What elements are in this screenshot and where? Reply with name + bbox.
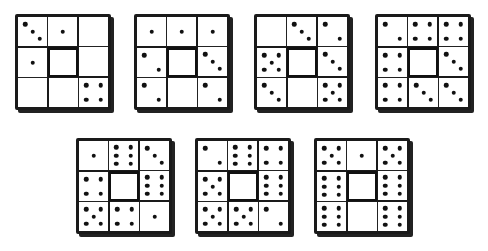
pip-icon	[383, 191, 388, 196]
domino-half	[377, 202, 407, 231]
pip-icon	[142, 53, 147, 58]
domino-half	[288, 78, 317, 107]
pip-icon	[383, 175, 388, 180]
domino-half	[198, 141, 227, 170]
pip-icon	[323, 83, 328, 88]
center-hole	[287, 47, 317, 77]
center-hole	[109, 171, 139, 201]
domino-puzzle-7	[314, 138, 410, 234]
pip-icon	[279, 191, 284, 196]
pip-icon	[203, 146, 208, 151]
pip-icon	[233, 145, 238, 150]
domino-half	[137, 48, 166, 77]
domino-puzzle-2	[134, 14, 230, 110]
pip-icon	[203, 83, 208, 88]
pip-icon	[414, 83, 419, 88]
pip-icon	[337, 176, 342, 181]
pip-icon	[145, 191, 150, 196]
domino-half	[198, 201, 227, 231]
pip-icon	[160, 161, 165, 166]
pip-icon	[451, 59, 456, 64]
domino-half	[378, 141, 407, 170]
pip-icon	[160, 191, 165, 196]
pip-icon	[210, 214, 215, 219]
pip-icon	[398, 83, 403, 88]
pip-icon	[307, 37, 312, 42]
pip-icon	[99, 83, 104, 88]
domino-half	[166, 17, 196, 46]
domino-left	[197, 171, 228, 232]
pip-icon	[277, 53, 282, 58]
center-hole	[228, 171, 258, 201]
pip-icon	[383, 206, 388, 211]
pip-icon	[383, 98, 388, 103]
pip-icon	[203, 222, 208, 227]
domino-puzzle-4	[375, 14, 471, 110]
pip-icon	[383, 161, 388, 166]
center-hole	[408, 47, 438, 77]
domino-half	[258, 202, 288, 231]
pip-icon	[398, 206, 403, 211]
pip-icon	[398, 183, 403, 188]
pip-icon	[160, 183, 165, 188]
center-hole	[347, 171, 377, 201]
pip-icon	[329, 153, 334, 158]
pip-icon	[84, 98, 89, 103]
domino-half	[378, 170, 407, 200]
domino-half	[346, 141, 376, 170]
pip-icon	[337, 206, 342, 211]
pip-icon	[451, 90, 456, 95]
pip-icon	[262, 53, 267, 58]
pip-icon	[218, 177, 223, 182]
domino-half	[49, 78, 78, 107]
pip-icon	[279, 146, 284, 151]
pip-icon	[459, 37, 464, 42]
domino-half	[378, 48, 407, 77]
pip-icon	[210, 184, 215, 189]
domino-bottom	[347, 201, 408, 232]
domino-bottom	[48, 77, 109, 108]
pip-icon	[337, 146, 342, 151]
domino-left	[316, 171, 347, 232]
pip-icon	[277, 68, 282, 73]
pip-icon	[218, 161, 223, 166]
pip-icon	[338, 37, 343, 42]
domino-half	[79, 172, 108, 201]
pip-icon	[91, 214, 96, 219]
pip-icon	[444, 83, 449, 88]
pip-icon	[279, 161, 284, 166]
pip-icon	[142, 83, 147, 88]
pip-icon	[30, 29, 35, 34]
domino-half	[407, 17, 437, 46]
pip-icon	[359, 153, 364, 158]
pip-icon	[115, 222, 120, 227]
domino-top	[17, 16, 78, 47]
domino-half	[317, 201, 346, 231]
pip-icon	[233, 161, 238, 166]
domino-bottom	[228, 201, 289, 232]
domino-half	[79, 17, 108, 46]
pip-icon	[152, 153, 157, 158]
domino-half	[318, 46, 347, 76]
pip-icon	[398, 53, 403, 58]
domino-half	[18, 77, 47, 107]
pip-icon	[84, 177, 89, 182]
pip-icon	[160, 175, 165, 180]
pip-icon	[203, 177, 208, 182]
pip-icon	[337, 161, 342, 166]
domino-half	[318, 17, 347, 46]
pip-icon	[428, 37, 433, 42]
pip-icon	[279, 175, 284, 180]
pip-icon	[398, 222, 403, 227]
pip-icon	[383, 146, 388, 151]
pip-icon	[114, 161, 119, 166]
domino-bottom	[287, 77, 348, 108]
pip-icon	[383, 214, 388, 219]
pip-icon	[398, 68, 403, 73]
pip-icon	[323, 22, 328, 27]
pip-icon	[248, 153, 253, 158]
domino-half	[197, 78, 227, 107]
pip-icon	[179, 29, 184, 34]
pip-icon	[157, 98, 162, 103]
pip-icon	[398, 161, 403, 166]
